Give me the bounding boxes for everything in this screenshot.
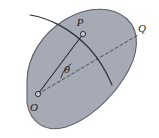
point-marker-p: [80, 31, 85, 36]
point-label-p: P: [76, 16, 84, 28]
geometry-figure: P O Q θ: [0, 0, 159, 138]
angle-label-theta: θ: [64, 64, 70, 75]
point-label-o: O: [30, 101, 38, 113]
point-label-q: Q: [138, 22, 146, 34]
point-marker-o: [35, 91, 40, 96]
geometry-canvas: P O Q θ: [0, 0, 159, 138]
